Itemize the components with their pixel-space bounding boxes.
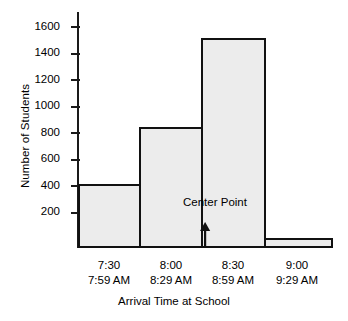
y-tick-label-400: 400 xyxy=(14,180,60,191)
y-tick-label-1600: 1600 xyxy=(14,21,60,32)
x-tick-label-3: 9:00 9:29 AM xyxy=(261,258,333,287)
x-tick-label-3-line2: 9:29 AM xyxy=(261,273,333,288)
y-tick-label-1400: 1400 xyxy=(14,47,60,58)
y-axis-tick-800 xyxy=(71,132,80,134)
y-axis-tick-600 xyxy=(71,159,80,161)
x-tick-label-2: 8:30 8:59 AM xyxy=(197,258,269,287)
bar-9-00 xyxy=(264,238,333,248)
x-tick-label-3-line1: 9:00 xyxy=(261,258,333,273)
histogram-chart: Number of Students 1600 1400 1200 1000 8… xyxy=(0,0,348,321)
bar-7-30 xyxy=(78,184,141,248)
center-point-arrow-icon xyxy=(199,222,211,251)
center-point-annotation: Center Point xyxy=(180,196,250,209)
y-tick-label-1200: 1200 xyxy=(14,74,60,85)
x-tick-label-2-line2: 8:59 AM xyxy=(197,273,269,288)
bar-8-00 xyxy=(139,127,203,248)
center-point-line1: Center xyxy=(183,196,218,208)
y-tick-label-600: 600 xyxy=(14,153,60,164)
bar-8-30 xyxy=(201,38,266,248)
y-tick-label-200: 200 xyxy=(14,206,60,217)
y-tick-label-800: 800 xyxy=(14,127,60,138)
y-axis-tick-1000 xyxy=(71,106,80,108)
y-tick-label-1000: 1000 xyxy=(14,100,60,111)
y-axis-tick-1600 xyxy=(71,26,80,28)
y-axis-tick-1400 xyxy=(71,53,80,55)
x-tick-label-2-line1: 8:30 xyxy=(197,258,269,273)
center-point-line2: Point xyxy=(221,196,247,208)
y-axis-tick-1200 xyxy=(71,79,80,81)
x-axis-title: Arrival Time at School xyxy=(0,295,348,307)
